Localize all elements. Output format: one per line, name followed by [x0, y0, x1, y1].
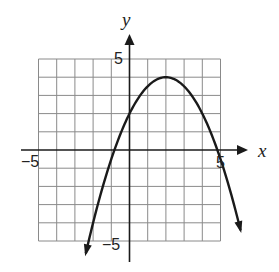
x-max-tick-label: 5 — [216, 154, 225, 171]
x-axis-label: x — [257, 140, 267, 161]
curve-arrow-left-icon — [84, 244, 92, 257]
y-axis-label: y — [120, 9, 131, 30]
curve-arrow-right-icon — [234, 220, 242, 233]
x-axis-arrow-icon — [237, 145, 248, 155]
y-max-tick-label: 5 — [114, 50, 123, 67]
x-min-tick-label: −5 — [21, 153, 39, 170]
y-axis-arrow-icon — [125, 34, 135, 45]
coordinate-graph: x y −5 5 5 −5 — [0, 0, 279, 272]
y-axis — [125, 34, 135, 262]
y-min-tick-label: −5 — [102, 236, 120, 253]
x-axis — [21, 145, 248, 155]
